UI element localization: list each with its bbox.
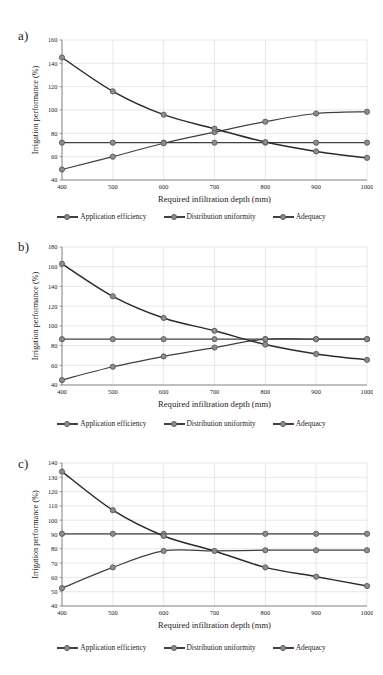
legend-marker-icon bbox=[57, 420, 78, 428]
panel-c-legend: Application efficiency Distribution unif… bbox=[0, 644, 383, 652]
svg-text:700: 700 bbox=[210, 388, 220, 395]
legend-item-adequacy: Adequacy bbox=[273, 644, 326, 652]
legend-item-adequacy: Adequacy bbox=[273, 213, 326, 221]
svg-text:800: 800 bbox=[261, 609, 271, 616]
svg-text:100: 100 bbox=[48, 106, 58, 113]
legend-label: Application efficiency bbox=[80, 644, 146, 651]
svg-text:600: 600 bbox=[159, 388, 169, 395]
panel-a-plot: 4060801001201401604005006007008009001000… bbox=[28, 34, 373, 214]
svg-text:800: 800 bbox=[261, 388, 271, 395]
legend-marker-icon bbox=[164, 213, 185, 221]
svg-text:400: 400 bbox=[57, 609, 67, 616]
legend-marker-icon bbox=[273, 213, 294, 221]
legend-label: Application efficiency bbox=[80, 213, 146, 220]
svg-text:60: 60 bbox=[51, 574, 57, 581]
svg-text:110: 110 bbox=[48, 502, 57, 509]
legend-item-adequacy: Adequacy bbox=[273, 420, 326, 428]
svg-text:Irrigation performance (%): Irrigation performance (%) bbox=[31, 65, 40, 154]
svg-text:140: 140 bbox=[48, 60, 58, 67]
svg-text:900: 900 bbox=[311, 609, 321, 616]
panel-b-legend: Application efficiency Distribution unif… bbox=[0, 420, 383, 428]
svg-text:500: 500 bbox=[108, 609, 118, 616]
panel-b: b) 4060801001201401601804005006007008009… bbox=[0, 232, 383, 450]
svg-text:500: 500 bbox=[108, 388, 118, 395]
legend-marker-icon bbox=[164, 644, 185, 652]
svg-text:50: 50 bbox=[51, 588, 57, 595]
legend-item-application-efficiency: Application efficiency bbox=[57, 213, 146, 221]
svg-text:700: 700 bbox=[210, 609, 220, 616]
legend-marker-icon bbox=[273, 420, 294, 428]
panel-a: a) 4060801001201401604005006007008009001… bbox=[0, 0, 383, 235]
svg-text:60: 60 bbox=[51, 362, 57, 369]
svg-text:180: 180 bbox=[48, 243, 58, 250]
svg-text:70: 70 bbox=[51, 560, 57, 567]
svg-text:60: 60 bbox=[51, 153, 57, 160]
svg-text:Required infiltration depth (m: Required infiltration depth (mm) bbox=[158, 399, 271, 409]
svg-text:600: 600 bbox=[159, 609, 169, 616]
svg-text:900: 900 bbox=[311, 388, 321, 395]
legend-item-application-efficiency: Application efficiency bbox=[57, 644, 146, 652]
svg-text:Required infiltration depth (m: Required infiltration depth (mm) bbox=[158, 194, 271, 204]
panel-b-chart: 4060801001201401601804005006007008009001… bbox=[28, 242, 373, 417]
legend-marker-icon bbox=[57, 213, 78, 221]
svg-text:600: 600 bbox=[159, 183, 169, 190]
svg-text:500: 500 bbox=[108, 183, 118, 190]
svg-text:140: 140 bbox=[48, 283, 58, 290]
svg-text:Irrigation performance (%): Irrigation performance (%) bbox=[31, 490, 40, 579]
panel-c-label: c) bbox=[18, 456, 29, 472]
legend-marker-icon bbox=[57, 644, 78, 652]
legend-label: Distribution uniformity bbox=[187, 420, 256, 427]
panel-c-chart: 4050607080901001101201301404005006007008… bbox=[28, 458, 373, 640]
svg-text:900: 900 bbox=[311, 183, 321, 190]
legend-marker-icon bbox=[273, 644, 294, 652]
legend-label: Distribution uniformity bbox=[187, 644, 256, 651]
legend-item-distribution-uniformity: Distribution uniformity bbox=[164, 644, 256, 652]
svg-text:1000: 1000 bbox=[361, 183, 373, 190]
svg-text:90: 90 bbox=[51, 531, 57, 538]
svg-text:100: 100 bbox=[48, 517, 58, 524]
panel-b-plot: 4060801001201401601804005006007008009001… bbox=[28, 242, 373, 417]
panel-a-chart: 4060801001201401604005006007008009001000… bbox=[28, 34, 373, 214]
svg-text:700: 700 bbox=[210, 183, 220, 190]
svg-text:160: 160 bbox=[48, 263, 58, 270]
svg-text:130: 130 bbox=[48, 474, 58, 481]
svg-text:400: 400 bbox=[57, 183, 67, 190]
svg-text:160: 160 bbox=[48, 36, 58, 43]
svg-text:80: 80 bbox=[51, 545, 57, 552]
svg-text:120: 120 bbox=[48, 488, 58, 495]
legend-label: Distribution uniformity bbox=[187, 213, 256, 220]
svg-text:1000: 1000 bbox=[361, 609, 373, 616]
svg-text:140: 140 bbox=[48, 459, 58, 466]
svg-text:100: 100 bbox=[48, 322, 58, 329]
svg-text:Irrigation performance (%): Irrigation performance (%) bbox=[31, 271, 40, 360]
legend-item-distribution-uniformity: Distribution uniformity bbox=[164, 420, 256, 428]
legend-label: Adequacy bbox=[296, 420, 326, 427]
legend-item-application-efficiency: Application efficiency bbox=[57, 420, 146, 428]
svg-text:80: 80 bbox=[51, 342, 57, 349]
svg-text:120: 120 bbox=[48, 83, 58, 90]
panel-a-legend: Application efficiency Distribution unif… bbox=[0, 213, 383, 221]
legend-item-distribution-uniformity: Distribution uniformity bbox=[164, 213, 256, 221]
legend-label: Adequacy bbox=[296, 644, 326, 651]
legend-label: Adequacy bbox=[296, 213, 326, 220]
svg-text:Required infiltration depth (m: Required infiltration depth (mm) bbox=[158, 620, 271, 630]
panel-c-plot: 4050607080901001101201301404005006007008… bbox=[28, 458, 373, 640]
svg-text:80: 80 bbox=[51, 130, 57, 137]
svg-text:1000: 1000 bbox=[361, 388, 373, 395]
svg-text:400: 400 bbox=[57, 388, 67, 395]
figure-root: a) 4060801001201401604005006007008009001… bbox=[0, 0, 383, 675]
legend-label: Application efficiency bbox=[80, 420, 146, 427]
panel-c: c) 4050607080901001101201301404005006007… bbox=[0, 448, 383, 675]
panel-a-label: a) bbox=[18, 28, 29, 44]
legend-marker-icon bbox=[164, 420, 185, 428]
svg-text:120: 120 bbox=[48, 303, 58, 310]
svg-text:800: 800 bbox=[261, 183, 271, 190]
